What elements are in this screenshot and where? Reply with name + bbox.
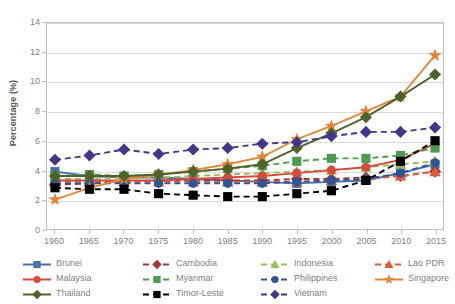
data-point <box>361 163 370 172</box>
legend-swatch-square-icon <box>142 272 172 285</box>
legend-swatch-triangle-icon <box>260 257 290 270</box>
x-tick-mark <box>54 230 55 234</box>
x-tick-mark <box>123 230 124 234</box>
data-point <box>361 154 370 163</box>
data-point <box>223 192 232 201</box>
data-point <box>118 144 130 156</box>
data-point <box>153 148 165 160</box>
data-point <box>223 179 232 188</box>
legend-swatch-circle-icon <box>260 272 290 285</box>
legend-label: Indonesia <box>290 258 333 268</box>
data-point <box>292 189 301 198</box>
data-point <box>256 138 268 150</box>
legend-item-malaysia[interactable]: Malaysia <box>22 271 92 285</box>
legend-item-timor-leste[interactable]: Timor-Leste <box>142 286 224 300</box>
data-point <box>258 192 267 201</box>
x-tick-mark <box>158 230 159 234</box>
y-tick-mark <box>42 230 46 231</box>
data-point <box>360 126 372 138</box>
data-point <box>429 121 441 133</box>
data-point <box>429 68 441 80</box>
data-point <box>327 186 336 195</box>
x-tick-label: 2015 <box>416 236 455 246</box>
legend-swatch-square-icon <box>22 257 52 270</box>
legend-item-singapore[interactable]: Singapore <box>374 271 449 285</box>
legend-swatch-triangle-icon <box>374 257 404 270</box>
legend-label: Lao PDR <box>404 258 445 268</box>
legend-label: Myanmar <box>172 273 214 283</box>
data-point <box>222 142 234 154</box>
legend-item-vietnam[interactable]: Vietnam <box>260 286 327 300</box>
data-point <box>327 176 336 185</box>
y-tick-label: 2 <box>14 196 40 205</box>
data-point <box>361 176 370 185</box>
legend-item-philippines[interactable]: Philippines <box>260 271 338 285</box>
y-tick-label: 10 <box>14 77 40 86</box>
legend-swatch-diamond-icon <box>142 257 172 270</box>
series-vietnam <box>49 121 441 165</box>
y-tick-label: 0 <box>14 226 40 235</box>
series-thailand <box>49 68 441 182</box>
data-point <box>430 136 439 145</box>
legend-item-lao-pdr[interactable]: Lao PDR <box>374 256 445 270</box>
x-tick-mark <box>228 230 229 234</box>
x-tick-mark <box>193 230 194 234</box>
data-point <box>429 49 442 61</box>
y-tick-label: 14 <box>14 18 40 27</box>
y-tick-label: 4 <box>14 167 40 176</box>
x-tick-mark <box>436 230 437 234</box>
series-line <box>55 127 435 159</box>
series-line <box>55 148 435 176</box>
legend-swatch-diamond-icon <box>22 287 52 300</box>
data-point <box>396 157 405 166</box>
legend-swatch-diamond-icon <box>260 287 290 300</box>
legend-item-myanmar[interactable]: Myanmar <box>142 271 214 285</box>
legend-label: Philippines <box>290 273 338 283</box>
y-tick-label: 8 <box>14 107 40 116</box>
legend-label: Brunei <box>52 258 82 268</box>
x-tick-mark <box>297 230 298 234</box>
data-point <box>49 154 61 166</box>
chart-legend: BruneiCambodiaIndonesiaLao PDRMalaysiaMy… <box>22 256 442 302</box>
legend-item-thailand[interactable]: Thailand <box>22 286 91 300</box>
data-point <box>292 177 301 186</box>
data-point <box>292 169 301 178</box>
y-tick-label: 12 <box>14 48 40 57</box>
data-point <box>396 169 405 178</box>
data-point <box>258 179 267 188</box>
data-point <box>430 158 439 167</box>
data-point <box>327 166 336 175</box>
legend-item-cambodia[interactable]: Cambodia <box>142 256 217 270</box>
legend-item-indonesia[interactable]: Indonesia <box>260 256 333 270</box>
legend-label: Thailand <box>52 288 91 298</box>
data-point <box>85 185 94 194</box>
series-line <box>55 141 435 197</box>
series-line <box>55 144 435 181</box>
data-point <box>50 183 59 192</box>
data-point <box>48 193 61 205</box>
legend-swatch-star-icon <box>374 272 404 285</box>
x-tick-mark <box>401 230 402 234</box>
x-tick-mark <box>262 230 263 234</box>
y-tick-label: 6 <box>14 137 40 146</box>
data-point <box>292 157 301 166</box>
data-point <box>154 189 163 198</box>
data-point <box>189 179 198 188</box>
data-point <box>83 149 95 161</box>
legend-item-brunei[interactable]: Brunei <box>22 256 82 270</box>
plot-area <box>46 22 444 230</box>
data-point <box>394 126 406 138</box>
legend-swatch-square-icon <box>142 287 172 300</box>
x-tick-mark <box>332 230 333 234</box>
legend-label: Timor-Leste <box>172 288 224 298</box>
data-point <box>327 154 336 163</box>
data-point <box>119 185 128 194</box>
legend-swatch-circle-icon <box>22 272 52 285</box>
legend-label: Cambodia <box>172 258 217 268</box>
x-tick-mark <box>89 230 90 234</box>
x-tick-mark <box>367 230 368 234</box>
legend-label: Singapore <box>404 273 449 283</box>
series-myanmar <box>50 144 439 181</box>
data-point <box>189 191 198 200</box>
legend-label: Vietnam <box>290 288 327 298</box>
